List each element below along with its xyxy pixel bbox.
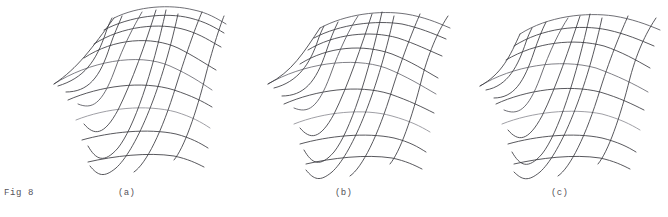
figure-page: Fig 8 (a) (b) (c) bbox=[0, 0, 668, 217]
figure-caption: Fig 8 bbox=[4, 188, 34, 198]
subfigure-label-a: (a) bbox=[118, 188, 135, 198]
surface-panel-c bbox=[450, 0, 668, 182]
surface-panel-b bbox=[238, 0, 468, 182]
surface-panel-a bbox=[18, 0, 248, 182]
wireframe-surface-a bbox=[18, 0, 248, 182]
subfigure-label-b: (b) bbox=[335, 188, 352, 198]
caption-row: Fig 8 (a) (b) (c) bbox=[0, 184, 668, 217]
subfigure-label-c: (c) bbox=[551, 188, 568, 198]
wireframe-surface-b bbox=[238, 0, 468, 182]
wireframe-surface-c bbox=[450, 0, 668, 182]
